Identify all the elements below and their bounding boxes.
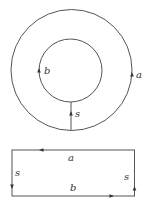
arrow-up-icon — [130, 72, 134, 77]
inner-circle-label: b — [44, 65, 50, 76]
right-edge-label: s — [124, 171, 129, 182]
arrow-up-icon — [133, 186, 137, 191]
cut-segment-label: s — [75, 108, 80, 119]
top-edge-label: a — [68, 152, 74, 163]
arrow-up-icon — [37, 68, 41, 73]
annulus-figure: b a s — [11, 10, 142, 131]
arrow-left-icon — [39, 148, 44, 152]
left-edge-label: s — [15, 167, 20, 178]
rectangle-figure: a s s b — [10, 148, 136, 198]
bottom-edge-label: b — [70, 182, 76, 193]
outer-circle-label: a — [136, 69, 142, 80]
arrow-up-icon — [69, 111, 73, 116]
arrow-down-icon — [10, 185, 14, 190]
annulus-cut-diagram: b a s a s s b — [0, 0, 148, 208]
arrow-right-icon — [110, 194, 115, 198]
